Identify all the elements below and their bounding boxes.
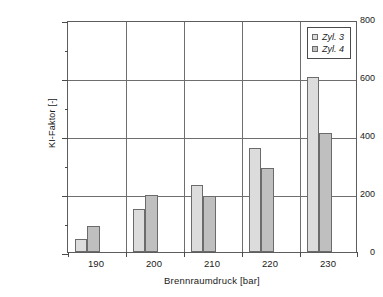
bar-chart-figure: KI-Faktor [-] Zyl. 3Zyl. 4 0200400600800… xyxy=(0,0,383,297)
legend-label: Zyl. 4 xyxy=(322,44,344,54)
gridline-vertical xyxy=(184,22,185,252)
bar xyxy=(133,209,145,253)
x-tick-label: 230 xyxy=(299,258,357,269)
x-tick xyxy=(300,252,301,257)
y-tick-major xyxy=(62,196,68,197)
gridline-vertical xyxy=(126,22,127,252)
y-tick-major xyxy=(62,22,68,23)
bar xyxy=(145,195,157,252)
y-tick-minor xyxy=(65,109,69,110)
gridline-vertical xyxy=(242,22,243,252)
legend-item: Zyl. 3 xyxy=(312,31,344,43)
x-tick-label: 220 xyxy=(241,258,299,269)
legend: Zyl. 3Zyl. 4 xyxy=(307,27,351,59)
bar xyxy=(261,168,273,252)
y-tick-minor xyxy=(65,167,69,168)
x-tick xyxy=(357,252,358,257)
x-tick-label: 190 xyxy=(67,258,125,269)
bar xyxy=(307,77,319,252)
legend-label: Zyl. 3 xyxy=(322,32,344,42)
bar xyxy=(249,148,261,252)
legend-item: Zyl. 4 xyxy=(312,43,344,55)
x-axis-title: Brennraumdruck [bar] xyxy=(67,275,357,286)
gridline-vertical xyxy=(300,22,301,252)
bar xyxy=(319,133,331,252)
y-tick-label: 400 xyxy=(360,131,375,141)
y-axis-title: KI-Faktor [-] xyxy=(47,38,57,208)
x-tick xyxy=(184,252,185,257)
legend-swatch-icon xyxy=(312,46,318,52)
x-tick-label: 200 xyxy=(125,258,183,269)
y-tick-major xyxy=(62,80,68,81)
x-tick xyxy=(126,252,127,257)
y-tick-label: 600 xyxy=(360,73,375,83)
plot-area: Zyl. 3Zyl. 4 xyxy=(67,21,357,253)
bar xyxy=(87,226,99,252)
y-tick-label: 0 xyxy=(370,247,375,257)
x-tick xyxy=(68,252,69,257)
y-tick-minor xyxy=(65,225,69,226)
y-tick-major xyxy=(62,138,68,139)
bar xyxy=(203,196,215,252)
y-tick-minor xyxy=(65,51,69,52)
legend-swatch-icon xyxy=(312,34,318,40)
x-tick-label: 210 xyxy=(183,258,241,269)
bar xyxy=(191,185,203,252)
x-tick xyxy=(242,252,243,257)
y-tick-label: 200 xyxy=(360,189,375,199)
bar xyxy=(75,239,87,252)
y-tick-label: 800 xyxy=(360,15,375,25)
